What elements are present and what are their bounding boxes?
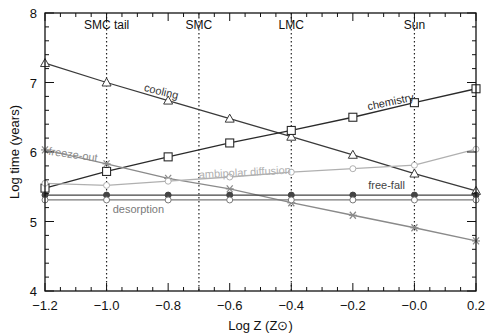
square-marker	[226, 139, 234, 147]
x-tick-label: −0.4	[278, 298, 304, 313]
y-axis-label: Log time (years)	[7, 105, 22, 199]
reference-label: Sun	[404, 18, 425, 32]
reference-label: LMC	[279, 18, 305, 32]
square-marker	[103, 167, 111, 175]
square-marker	[164, 153, 172, 161]
asterisk-marker	[349, 212, 357, 219]
reference-label: SMC	[186, 18, 213, 32]
circle-open-marker	[165, 197, 171, 203]
asterisk-marker	[226, 185, 234, 192]
circle-open-marker	[227, 197, 233, 203]
series-label-ambipolar-diffusion: ambipolar diffusion	[198, 164, 291, 181]
x-tick-label: −1.0	[94, 298, 120, 313]
circle-open-marker	[411, 162, 417, 168]
chart: SMC tailSMCLMCSuncoolingchemistryfreeze-…	[0, 0, 492, 335]
circle-open-marker	[411, 197, 417, 203]
series-lines	[45, 63, 476, 241]
y-tick-label: 6	[30, 145, 37, 160]
x-tick-label: −0.2	[340, 298, 366, 313]
x-axis-label: Log Z (Z⊙)	[228, 318, 292, 333]
reference-label: SMC tail	[84, 18, 129, 32]
circle-open-marker	[104, 197, 110, 203]
series-label-chemistry: chemistry	[366, 91, 415, 113]
circle-open-marker	[288, 197, 294, 203]
x-tick-label: −1.2	[32, 298, 58, 313]
y-tick-label: 4	[30, 284, 37, 299]
x-tick-label: −0.8	[155, 298, 181, 313]
square-marker	[349, 113, 357, 121]
y-tick-label: 8	[30, 6, 37, 21]
series-label-freeze-out: freeze-out	[48, 145, 99, 164]
x-tick-label: 0.2	[467, 298, 485, 313]
series-label-free-fall: free-fall	[368, 179, 405, 191]
reference-lines	[107, 13, 415, 291]
circle-open-marker	[350, 197, 356, 203]
x-tick-label: −0.0	[402, 298, 428, 313]
axes	[45, 13, 476, 291]
y-tick-label: 5	[30, 215, 37, 230]
x-tick-label: −0.6	[217, 298, 243, 313]
plot-frame	[45, 13, 476, 291]
series-label-desorption: desorption	[113, 203, 164, 215]
circle-open-marker	[350, 166, 356, 172]
y-tick-label: 7	[30, 76, 37, 91]
circle-open-marker	[165, 178, 171, 184]
square-marker	[287, 126, 295, 134]
circle-open-marker	[104, 182, 110, 188]
chart-labels: SMC tailSMCLMCSuncoolingchemistryfreeze-…	[7, 6, 485, 333]
